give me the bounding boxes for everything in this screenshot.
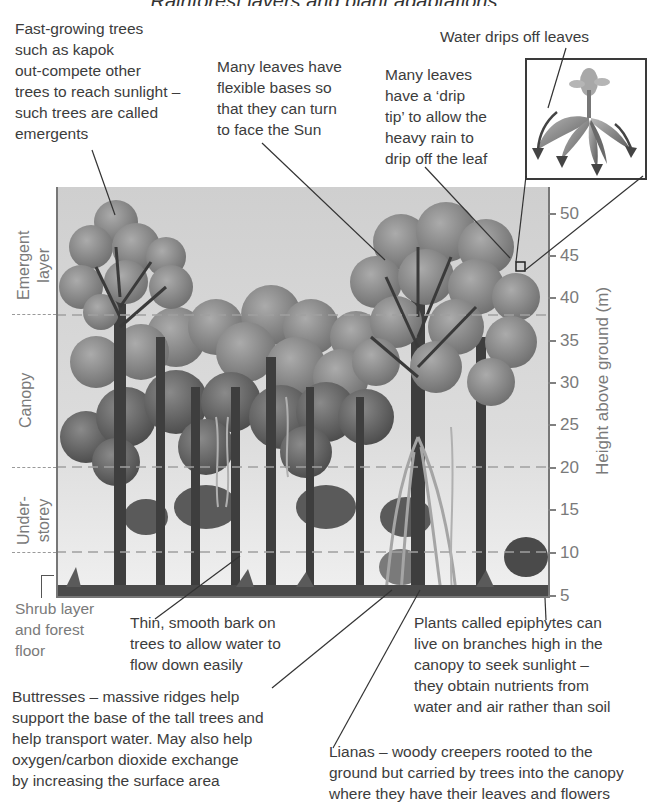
annotation-thin-bark: Thin, smooth bark on trees to allow wate… (130, 612, 281, 675)
scene-left-border (56, 187, 58, 597)
annotation-line: Buttresses – massive ridges help (12, 686, 264, 707)
emergent-canopy-divider (12, 314, 56, 315)
rainforest-scene (56, 187, 548, 597)
understorey-shrub-divider (12, 552, 56, 553)
shrub-bracket (41, 575, 54, 598)
tick-30 (548, 382, 556, 384)
annotation-lianas: Lianas – woody creepers rooted to the gr… (329, 741, 624, 804)
leaf-illustration-icon (527, 60, 645, 178)
tick-40 (548, 297, 556, 299)
drip-tip-inset (525, 58, 647, 180)
layer-label-line: Under- (14, 496, 34, 545)
annotation-epiphytes: Plants called epiphytes can live on bran… (414, 612, 610, 717)
tick-label-5: 5 (560, 587, 569, 604)
layer-label-understorey: Under- storey (14, 496, 54, 545)
annotation-line: water and air rather than soil (414, 696, 610, 717)
forest-illustration-icon (56, 187, 548, 597)
tick-10 (548, 552, 556, 554)
annotation-line: out-compete other (15, 60, 180, 81)
annotation-line: Plants called epiphytes can (414, 612, 610, 633)
canopy-understorey-divider (12, 467, 56, 468)
annotation-line: Many leaves (385, 64, 487, 85)
layer-label-canopy: Canopy (16, 373, 36, 428)
annotation-line: such trees are called (15, 102, 180, 123)
layer-label-emergent: Emergent layer (14, 231, 54, 300)
height-axis-line (548, 187, 550, 597)
tick-label-25: 25 (560, 416, 579, 433)
annotation-line: they obtain nutrients from (414, 675, 610, 696)
tick-20 (548, 467, 556, 469)
annotation-buttresses: Buttresses – massive ridges help support… (12, 686, 264, 791)
annotation-line: flow down easily (130, 654, 281, 675)
tick-label-30: 30 (560, 374, 579, 391)
layer-label-line: and forest (15, 619, 94, 640)
tick-25 (548, 424, 556, 426)
annotation-line: oxygen/carbon dioxide exchange (12, 749, 264, 770)
annotation-line: trees to reach sunlight – (15, 81, 180, 102)
title-fragment: Rainforest layers and plant adaptations (0, 0, 648, 6)
annotation-line: tip’ to allow the (385, 106, 487, 127)
annotation-drip-tip: Many leaves have a ‘drip tip’ to allow t… (385, 64, 487, 169)
annotation-flexible-bases: Many leaves have flexible bases so that … (217, 56, 342, 140)
layer-label-shrub: Shrub layer and forest floor (15, 598, 94, 661)
tick-50 (548, 213, 556, 215)
layer-label-line: layer (34, 231, 54, 300)
layer-label-line: floor (15, 640, 94, 661)
annotation-line: emergents (15, 123, 180, 144)
layer-label-line: storey (34, 496, 54, 545)
annotation-line: ground but carried by trees into the can… (329, 762, 624, 783)
annotation-line: drip off the leaf (385, 148, 487, 169)
tick-label-20: 20 (560, 459, 579, 476)
tick-label-10: 10 (560, 544, 579, 561)
annotation-line: live on branches high in the (414, 633, 610, 654)
annotation-line: trees to allow water to (130, 633, 281, 654)
tick-15 (548, 509, 556, 511)
annotation-water-drips: Water drips off leaves (440, 26, 589, 47)
annotation-line: heavy rain to (385, 127, 487, 148)
tick-45 (548, 255, 556, 257)
annotation-line: Lianas – woody creepers rooted to the (329, 741, 624, 762)
tick-label-15: 15 (560, 501, 579, 518)
annotation-line: support the base of the tall trees and (12, 707, 264, 728)
annotation-line: that they can turn (217, 98, 342, 119)
annotation-line: where they have their leaves and flowers (329, 783, 624, 804)
tick-label-35: 35 (560, 332, 579, 349)
annotation-line: flexible bases so (217, 77, 342, 98)
tick-label-45: 45 (560, 247, 579, 264)
tick-label-50: 50 (560, 205, 579, 222)
annotation-line: to face the Sun (217, 119, 342, 140)
annotation-line: have a ‘drip (385, 85, 487, 106)
annotation-line: Many leaves have (217, 56, 342, 77)
tick-5 (548, 595, 556, 597)
annotation-emergents: Fast-growing trees such as kapok out-com… (15, 18, 180, 144)
annotation-line: such as kapok (15, 39, 180, 60)
ground-line (56, 596, 550, 598)
annotation-line: canopy to seek sunlight – (414, 654, 610, 675)
layer-label-line: Emergent (14, 231, 34, 300)
tick-35 (548, 340, 556, 342)
annotation-line: Fast-growing trees (15, 18, 180, 39)
axis-title: Height above ground (m) (593, 287, 613, 475)
layer-label-line: Shrub layer (15, 598, 94, 619)
annotation-line: help transport water. May also help (12, 728, 264, 749)
annotation-line: Thin, smooth bark on (130, 612, 281, 633)
tick-label-40: 40 (560, 289, 579, 306)
annotation-line: by increasing the surface area (12, 770, 264, 791)
